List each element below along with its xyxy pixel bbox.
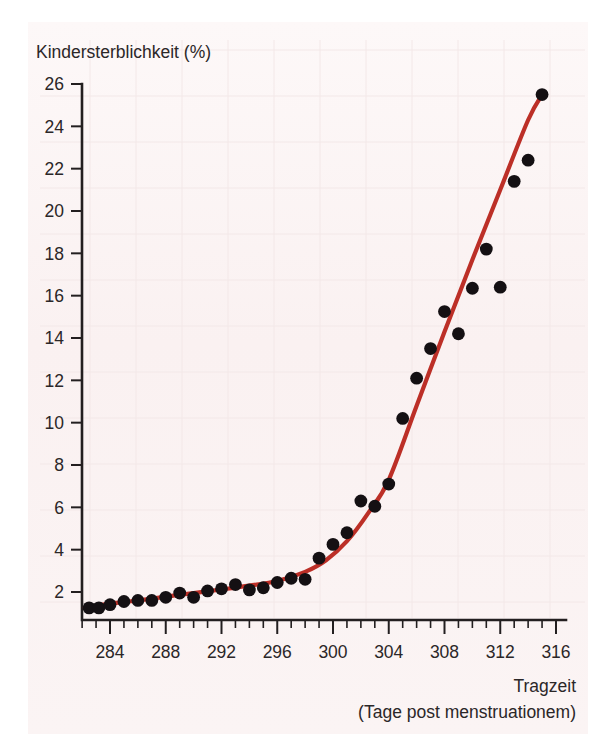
x-tick-label: 316: [541, 642, 570, 662]
data-point: [285, 572, 298, 585]
ticks-group: [71, 84, 556, 634]
y-tick-label: 26: [45, 74, 64, 94]
data-point: [396, 412, 409, 425]
data-point: [466, 282, 479, 295]
y-tick-label: 16: [45, 286, 64, 306]
data-point: [173, 587, 186, 600]
y-tick-label: 10: [45, 413, 65, 433]
x-tick-label: 296: [263, 642, 292, 662]
data-point: [257, 581, 270, 594]
data-point: [92, 601, 105, 614]
y-tick-label: 20: [45, 201, 65, 221]
axes-group: [82, 84, 566, 620]
data-point: [271, 576, 284, 589]
chart-svg: 2468101214161820222426284288292296300304…: [0, 0, 610, 756]
data-point: [201, 585, 214, 598]
figure-page: 2468101214161820222426284288292296300304…: [0, 0, 610, 756]
data-point: [159, 591, 172, 604]
data-point: [243, 583, 256, 596]
y-tick-label: 12: [45, 371, 64, 391]
data-point: [424, 342, 437, 355]
data-point: [410, 372, 423, 385]
chart-plot-area: 2468101214161820222426284288292296300304…: [0, 0, 610, 756]
data-point: [215, 582, 228, 595]
data-point: [145, 594, 158, 607]
data-point: [104, 598, 117, 611]
x-tick-label: 312: [486, 642, 515, 662]
x-tick-label: 292: [207, 642, 236, 662]
data-point: [299, 573, 312, 586]
data-point: [508, 175, 521, 188]
data-point: [438, 305, 451, 318]
regression-curve: [85, 92, 544, 607]
data-point: [313, 552, 326, 565]
data-point: [187, 591, 200, 604]
data-point: [118, 595, 131, 608]
y-tick-label: 22: [45, 159, 64, 179]
y-tick-label: 2: [54, 582, 64, 602]
x-tick-label: 308: [430, 642, 459, 662]
x-tick-label: 300: [318, 642, 347, 662]
data-point: [494, 281, 507, 294]
data-point: [480, 243, 493, 256]
y-tick-label: 8: [54, 455, 64, 475]
data-point: [452, 327, 465, 340]
data-point: [341, 526, 354, 539]
y-tick-label: 18: [45, 244, 64, 264]
x-tick-label: 288: [151, 642, 180, 662]
data-point: [522, 154, 535, 167]
data-point: [229, 578, 242, 591]
data-point: [368, 500, 381, 513]
x-tick-label: 284: [95, 642, 124, 662]
data-point: [382, 478, 395, 491]
x-axis-label: Tragzeit: [513, 676, 576, 696]
faint-grid: [40, 40, 585, 618]
x-tick-label: 304: [374, 642, 403, 662]
x-axis-sublabel: (Tage post menstruationem): [358, 702, 576, 722]
data-point: [327, 538, 340, 551]
data-points: [83, 88, 549, 614]
regression-line: [85, 92, 544, 607]
y-tick-label: 6: [54, 498, 64, 518]
y-tick-label: 14: [45, 328, 65, 348]
y-axis-label: Kindersterblichkeit (%): [36, 42, 211, 62]
data-point: [131, 594, 144, 607]
y-tick-label: 4: [54, 540, 64, 560]
data-point: [536, 88, 549, 101]
data-point: [354, 495, 367, 508]
y-tick-label: 24: [45, 117, 65, 137]
